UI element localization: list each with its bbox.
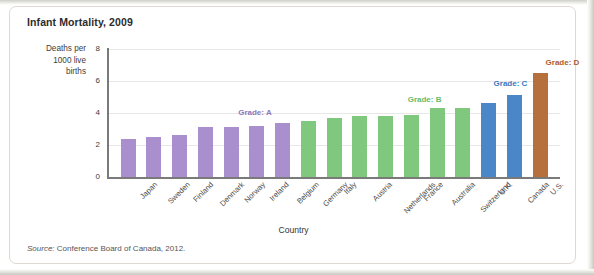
annotation-grade-b: Grade: B	[408, 95, 442, 104]
y-tick-label-8: 8	[84, 44, 100, 53]
x-label-japan: Japan	[138, 180, 159, 201]
y-axis-title: Deaths per 1000 live births	[18, 43, 86, 78]
x-label-canada: Canada	[526, 180, 551, 205]
page-edge-top	[0, 0, 594, 5]
source-note: Source: Conference Board of Canada, 2012…	[27, 244, 185, 253]
x-label-belgium: Belgium	[295, 180, 321, 206]
source-text: Conference Board of Canada, 2012.	[55, 244, 186, 253]
figure-card: Infant Mortality, 2009 Deaths per 1000 l…	[9, 6, 576, 264]
page-edge-right	[587, 0, 594, 275]
y-axis-title-line-2: 1000 live	[18, 55, 86, 67]
y-tick-label-6: 6	[84, 76, 100, 85]
annotation-grade-d: Grade: D	[546, 58, 580, 67]
y-tick-label-0: 0	[84, 172, 100, 181]
x-label-austria: Austria	[371, 180, 394, 203]
bar-u-k[interactable]	[481, 103, 496, 177]
y-tick-label-4: 4	[84, 108, 100, 117]
bar-finland[interactable]	[172, 135, 187, 177]
bar-belgium[interactable]	[275, 123, 290, 177]
bar-france[interactable]	[404, 115, 419, 177]
x-label-finland: Finland	[191, 180, 215, 204]
scanned-page: Infant Mortality, 2009 Deaths per 1000 l…	[0, 0, 594, 275]
y-axis-title-line-1: Deaths per	[18, 43, 86, 55]
source-prefix: Source:	[27, 244, 55, 253]
bar-australia[interactable]	[430, 108, 445, 177]
y-tick-label-2: 2	[84, 140, 100, 149]
bar-italy[interactable]	[327, 118, 342, 177]
x-label-denmark: Denmark	[218, 180, 246, 208]
x-axis-tick-labels: JapanSwedenFinlandDenmarkNorwayIrelandBe…	[108, 180, 560, 220]
bar-netherlands[interactable]	[378, 116, 393, 177]
x-label-australia: Australia	[450, 180, 477, 207]
x-axis-title: Country	[10, 225, 577, 235]
x-label-u-s: U.S.	[548, 180, 565, 197]
bar-canada[interactable]	[507, 95, 522, 177]
y-axis-title-line-3: births	[18, 66, 86, 78]
x-axis-line	[107, 177, 560, 179]
page-edge-bottom	[0, 269, 594, 275]
bar-switzerland[interactable]	[455, 108, 470, 177]
annotation-grade-c: Grade: C	[494, 79, 528, 88]
bar-u-s[interactable]	[533, 73, 548, 177]
x-label-ireland: Ireland	[268, 180, 291, 203]
bar-japan[interactable]	[121, 139, 136, 177]
x-label-sweden: Sweden	[166, 180, 192, 206]
bar-austria[interactable]	[352, 116, 367, 177]
x-label-norway: Norway	[243, 180, 268, 205]
bar-sweden[interactable]	[146, 137, 161, 177]
bar-series	[108, 49, 560, 177]
chart-title: Infant Mortality, 2009	[27, 16, 133, 28]
annotation-grade-a: Grade: A	[238, 108, 272, 117]
bar-norway[interactable]	[224, 127, 239, 177]
bar-ireland[interactable]	[249, 126, 264, 177]
bar-denmark[interactable]	[198, 127, 213, 177]
bar-germany[interactable]	[301, 121, 316, 177]
